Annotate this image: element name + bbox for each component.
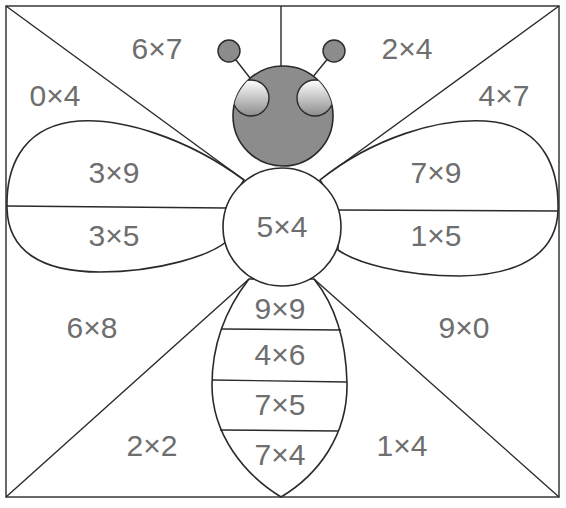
label-right-wing-upper: 7×9 bbox=[411, 156, 462, 189]
label-center: 5×4 bbox=[257, 210, 308, 243]
label-top-right: 2×4 bbox=[382, 32, 433, 65]
label-right-wing-lower: 1×5 bbox=[411, 219, 462, 252]
antenna-left-tip bbox=[218, 40, 240, 62]
label-left-wing-lower: 3×5 bbox=[89, 219, 140, 252]
label-right-lower: 9×0 bbox=[439, 311, 490, 344]
label-left-upper: 0×4 bbox=[30, 79, 81, 112]
label-bottom-left: 2×2 bbox=[127, 429, 178, 462]
eye-right bbox=[297, 80, 333, 116]
body-stripe-3 bbox=[220, 430, 338, 431]
right-wing-divider bbox=[338, 210, 558, 211]
label-body-4: 7×4 bbox=[255, 438, 306, 471]
label-top-left: 6×7 bbox=[132, 32, 183, 65]
body-stripe-1 bbox=[221, 329, 341, 330]
label-body-2: 4×6 bbox=[255, 338, 306, 371]
label-body-3: 7×5 bbox=[255, 388, 306, 421]
label-left-wing-upper: 3×9 bbox=[89, 156, 140, 189]
right-wing[interactable] bbox=[320, 121, 558, 276]
label-bottom-right: 1×4 bbox=[377, 429, 428, 462]
antenna-right-tip bbox=[323, 40, 345, 62]
bee-puzzle: 6×7 2×4 0×4 4×7 3×9 3×5 7×9 1×5 5×4 6×8 … bbox=[0, 0, 566, 508]
diagonal-bottom-right bbox=[314, 279, 559, 497]
label-body-1: 9×9 bbox=[255, 292, 306, 325]
eye-left bbox=[233, 80, 269, 116]
label-right-upper: 4×7 bbox=[479, 79, 530, 112]
label-left-lower: 6×8 bbox=[67, 311, 118, 344]
